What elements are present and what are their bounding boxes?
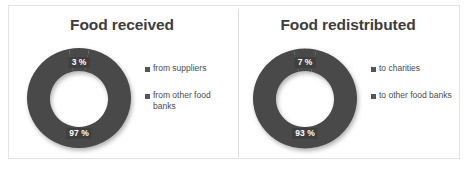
legend-right: to charities to other food banks [371,63,457,117]
donut-label-left-small: 3 % [69,57,90,68]
chart-panel-food-received: Food received 3 % 97 % [9,6,235,158]
legend-marker-icon [145,67,150,72]
legend-left: from suppliers from other food banks [145,63,231,128]
legend-label-from-other-food-banks: from other food banks [153,90,231,112]
legend-marker-icon [371,67,376,72]
donut-chart-right: 7 % 93 % [251,46,359,150]
donut-chart-left: 3 % 97 % [25,46,133,150]
donut-label-left-large: 97 % [66,128,91,139]
legend-item-to-other-food-banks[interactable]: to other food banks [371,90,457,101]
legend-label-to-charities: to charities [379,63,420,74]
legend-item-to-charities[interactable]: to charities [371,63,457,74]
chart-title-right: Food redistributed [235,16,461,34]
legend-label-to-other-food-banks: to other food banks [379,90,452,101]
donut-label-right-small: 7 % [295,57,316,68]
legend-marker-icon [371,94,376,99]
donut-label-right-large: 93 % [292,128,317,139]
legend-item-from-other-food-banks[interactable]: from other food banks [145,90,231,112]
chart-panel-food-redistributed: Food redistributed 7 % 93 % [235,6,461,158]
chart-title-left: Food received [9,16,235,34]
legend-item-from-suppliers[interactable]: from suppliers [145,63,231,74]
legend-label-from-suppliers: from suppliers [153,63,206,74]
figure-frame: Food received 3 % 97 % [8,5,460,159]
legend-marker-icon [145,94,150,99]
